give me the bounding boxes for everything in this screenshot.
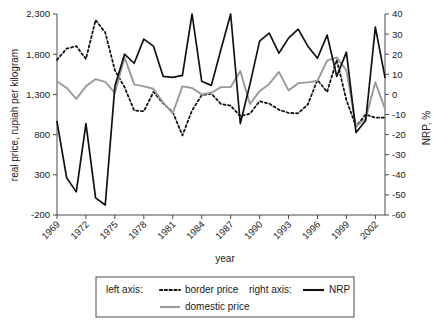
x-tick-label: 1969 xyxy=(39,219,62,242)
right-tick-label: 10 xyxy=(392,69,403,80)
series-line-border-price xyxy=(57,20,385,135)
x-tick-label: 1993 xyxy=(271,219,294,242)
legend-label-nrp: NRP xyxy=(329,284,350,295)
chart-legend: left axis: border price right axis: NRP … xyxy=(96,277,354,317)
left-tick-label: 300 xyxy=(34,169,50,180)
x-tick-label: 1990 xyxy=(242,219,265,242)
x-tick-label: 2002 xyxy=(358,219,381,242)
right-tick-label: 0 xyxy=(392,89,397,100)
right-axis-ticks: -60-50-40-30-20-10010203040 xyxy=(385,8,406,220)
right-axis-title: NRP, % xyxy=(421,111,432,145)
right-tick-label: 40 xyxy=(392,8,403,19)
x-tick-label: 1972 xyxy=(68,219,91,242)
series-line-nrp xyxy=(57,14,385,205)
left-tick-label: 1,800 xyxy=(26,49,50,60)
left-tick-label: 800 xyxy=(34,129,50,140)
right-tick-label: -40 xyxy=(392,169,406,180)
line-chart: -2003008001,3001,8002,300 -60-50-40-30-2… xyxy=(0,0,443,321)
left-axis-title: real price, rupiah per kilogram xyxy=(9,49,20,181)
x-axis-ticks: 1969197219751978198119841987199019931996… xyxy=(39,215,380,241)
legend-label-border-price: border price xyxy=(185,284,239,295)
right-tick-label: -50 xyxy=(392,189,406,200)
x-tick-label: 1981 xyxy=(155,219,178,242)
legend-left-axis-label: left axis: xyxy=(106,284,143,295)
right-tick-label: -20 xyxy=(392,129,406,140)
right-tick-label: -30 xyxy=(392,149,406,160)
left-axis-ticks: -2003008001,3001,8002,300 xyxy=(26,8,57,220)
right-tick-label: -60 xyxy=(392,209,406,220)
x-tick-label: 1978 xyxy=(126,219,149,242)
right-tick-label: -10 xyxy=(392,109,406,120)
left-tick-label: -200 xyxy=(31,209,50,220)
x-tick-label: 1987 xyxy=(213,219,236,242)
x-tick-label: 1984 xyxy=(184,219,207,242)
chart-figure: -2003008001,3001,8002,300 -60-50-40-30-2… xyxy=(0,0,443,321)
left-tick-label: 1,300 xyxy=(26,89,50,100)
x-tick-label: 1999 xyxy=(329,219,352,242)
left-tick-label: 2,300 xyxy=(26,8,50,19)
x-tick-label: 1975 xyxy=(97,219,120,242)
legend-label-domestic-price: domestic price xyxy=(185,301,250,312)
plot-area: -2003008001,3001,8002,300 -60-50-40-30-2… xyxy=(26,8,406,241)
x-axis-title: year xyxy=(215,253,235,264)
series-line-domestic-price xyxy=(57,57,385,126)
legend-right-axis-label: right axis: xyxy=(249,284,292,295)
series-layer xyxy=(57,14,385,205)
x-tick-label: 1996 xyxy=(300,219,323,242)
right-tick-label: 30 xyxy=(392,29,403,40)
right-tick-label: 20 xyxy=(392,49,403,60)
